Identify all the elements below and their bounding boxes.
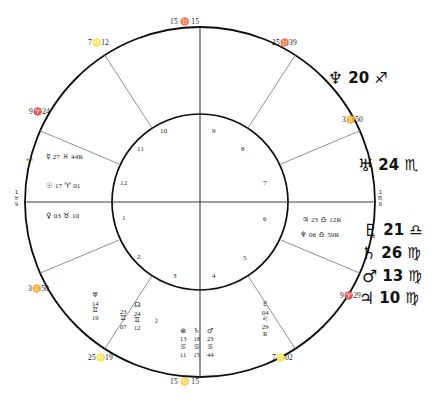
taurus-glyph: ♉ — [63, 211, 70, 220]
mercury-minute: 44R — [71, 153, 83, 161]
house-number-10: 10 — [160, 128, 167, 135]
venus-glyph: ♀ — [46, 211, 52, 220]
jupiter-degree: 23 — [311, 216, 318, 224]
planet-row-jupiter-wheel: ♃ 23 ♎ 12R — [302, 216, 341, 224]
mercury-degree: 27 — [53, 153, 60, 161]
pluto-retrograde: R — [262, 330, 269, 337]
pisces-glyph: ♓ — [62, 152, 69, 161]
house-number-3: 3 — [173, 273, 177, 280]
north-node-glyph: ☊ — [134, 302, 141, 310]
planet-stack-uranus: ♅ 14 ♊ 19 — [92, 292, 99, 321]
neptune-icon: ♆ — [328, 68, 343, 88]
house-number-1: 1 — [122, 215, 126, 222]
planet-stack-moon: ☽ — [152, 318, 158, 326]
cancer-glyph-1: ♋ — [180, 343, 187, 351]
house-number-6: 6 — [263, 216, 267, 223]
asc-minute: 9 — [14, 201, 19, 207]
house-number-4: 4 — [212, 273, 216, 280]
planet-stack-saturn: ♄ 18 ♋ 15 — [194, 327, 201, 358]
planet-stack-mars: ♂ 23 ♋ 44 — [207, 327, 214, 358]
jupiter-glyph: ♃ — [302, 215, 309, 224]
sun-minute: 01 — [73, 182, 80, 190]
chiron-minute-stack: 07 — [120, 323, 127, 330]
mars-glyph: ♂ — [207, 327, 214, 335]
saturn-icon: ♄ — [361, 243, 376, 263]
planet-row-sun: ☉ 17 ♈ 01 — [46, 182, 81, 190]
annotation-jupiter-text: 10 ♍ — [379, 289, 419, 307]
planet-row-venus: ♀ 03 ♉ 10 — [46, 212, 79, 220]
aries-sign-marker: ♈ — [26, 158, 33, 166]
mars-icon: ♂ — [362, 266, 377, 286]
house-number-9: 9 — [212, 128, 216, 135]
planet-row-mercury: ☿ 27 ♓ 44R — [46, 153, 83, 161]
house-number-7: 7 — [263, 180, 267, 187]
planet-cluster-house-4: ⊗ 13 ♋ 11 ♄ 18 ♋ 15 ♂ 23 ♋ 44 — [180, 327, 214, 358]
cusp-2-label: 3♊50 — [28, 285, 49, 293]
cusp-9-label: 25♉39 — [272, 39, 297, 47]
saturn-degree: 18 — [194, 335, 201, 342]
leo-glyph: ♌ — [262, 316, 269, 324]
venus-degree: 03 — [54, 212, 61, 220]
fortune-degree: 13 — [180, 335, 187, 342]
node-minute-stack: 12 — [134, 324, 141, 331]
annotation-mars: ♂ 13 ♍ — [362, 266, 422, 286]
saturn-glyph: ♄ — [194, 327, 201, 335]
planet-stack-node: ☊ 24 ♊ 12 — [134, 302, 141, 331]
aries-glyph: ♈ — [64, 181, 71, 190]
annotation-uranus-text: 24 ♏ — [378, 156, 418, 174]
house-number-8: 8 — [241, 146, 245, 153]
sun-degree: 17 — [55, 182, 62, 190]
libra-glyph: ♎ — [320, 215, 327, 224]
uranus-glyph-stack: ♅ — [92, 292, 99, 300]
house-number-2: 2 — [137, 254, 141, 261]
neptune-minute: 59R — [327, 231, 339, 239]
annotation-jupiter: ♃ 10 ♍ — [359, 288, 419, 308]
dsc-minute: 8 — [378, 201, 383, 207]
cusp-11-label: 7♌12 — [88, 39, 109, 47]
part-of-fortune-glyph: ⊗ — [180, 327, 187, 335]
annotation-neptune-text: 20 ♐ — [348, 69, 388, 87]
sun-glyph: ☉ — [46, 181, 53, 190]
mercury-glyph: ☿ — [46, 152, 51, 161]
astrology-chart: 15 ♉ 15 15 ♋ 15 7♌12 25♉39 9♈24 3♊50 3♊5… — [0, 0, 447, 404]
pluto-glyph: ♇ — [262, 301, 269, 309]
cancer-glyph-3: ♋ — [207, 343, 214, 351]
pluto-icon: ♇ — [363, 220, 378, 240]
planet-stack-pluto: ♇ 04 ♌ 29 R — [262, 301, 269, 337]
planet-stack-fortune: ⊗ 13 ♋ 11 — [180, 327, 187, 358]
annotation-saturn-text: 26 ♍ — [381, 244, 421, 262]
descendant-label: 1 ♏ 8 — [378, 189, 383, 207]
gemini-glyph-2: ♊ — [120, 315, 127, 323]
ic-label: 15 ♋ 15 — [170, 378, 199, 386]
neptune-degree: 06 — [309, 231, 316, 239]
venus-minute: 10 — [72, 212, 79, 220]
annotation-pluto-text: 21 ♎ — [383, 221, 423, 239]
annotation-pluto: ♇ 21 ♎ — [363, 220, 423, 240]
moon-glyph: ☽ — [152, 318, 158, 326]
mars-minute: 44 — [207, 351, 214, 358]
mc-label: 15 ♉ 15 — [170, 18, 199, 26]
ascendant-label: 1 ♉ 9 — [14, 189, 19, 207]
libra-glyph-2: ♎ — [318, 230, 325, 239]
cusp-5-label: 7♌02 — [272, 354, 293, 362]
pluto-minute: 29 — [262, 323, 269, 330]
annotation-uranus: ♅ 24 ♏ — [358, 155, 418, 175]
house-number-12: 12 — [120, 180, 127, 187]
planet-row-neptune-wheel: ♆ 06 ♎ 59R — [300, 231, 339, 239]
house-number-11: 11 — [137, 146, 144, 153]
gemini-glyph-1: ♊ — [92, 307, 99, 315]
cusp-8-label: 3♊50 — [342, 116, 363, 124]
planet-stack-chiron: 23 ♊ 07 — [120, 308, 127, 330]
neptune-glyph: ♆ — [300, 230, 307, 239]
cusp-3-label: 25♌19 — [88, 354, 113, 362]
jupiter-minute: 12R — [329, 216, 341, 224]
annotation-mars-text: 13 ♍ — [382, 267, 422, 285]
uranus-icon: ♅ — [358, 155, 373, 175]
fortune-minute: 11 — [180, 351, 187, 358]
gemini-glyph-3: ♊ — [134, 317, 141, 325]
jupiter-icon: ♃ — [359, 288, 374, 308]
saturn-minute: 15 — [194, 351, 201, 358]
cusp-12-label: 9♈24 — [29, 108, 50, 116]
mars-degree: 23 — [207, 335, 214, 342]
cancer-glyph-2: ♋ — [194, 343, 201, 351]
